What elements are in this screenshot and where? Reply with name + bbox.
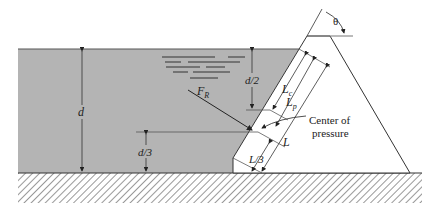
center-pressure-label-2: pressure [312,127,349,139]
ground [18,173,422,203]
dam-diagram: θ d d/2 d/3 FR Lc Lp L L/3 Cen [0,0,443,217]
l-third-label: L/3 [248,153,264,165]
d-half-label: d/2 [245,74,260,86]
d-third-label: d/3 [138,146,153,158]
extension-line [307,9,322,36]
center-pressure-label-1: Center of [309,114,351,126]
d-label: d [78,105,85,119]
theta-label: θ [333,15,338,27]
l-label: L [282,135,290,149]
